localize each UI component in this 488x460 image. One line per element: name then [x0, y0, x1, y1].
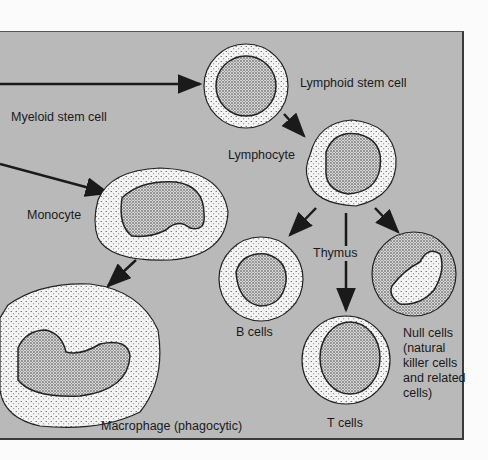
label-lymphoid-stem-cell: Lymphoid stem cell [300, 76, 407, 91]
label-monocyte: Monocyte [27, 208, 81, 223]
macrophage-cell [0, 284, 160, 428]
lymphocyte-cell [306, 120, 396, 206]
label-t-cells: T cells [327, 416, 363, 431]
label-myeloid-stem-cell: Myeloid stem cell [11, 110, 107, 125]
label-lymphocyte: Lymphocyte [228, 148, 295, 163]
arrow-monocyte-to-macrophage [108, 260, 136, 286]
lymphoid-stem-cell [204, 44, 288, 128]
label-null-cells: Null cells (natural killer cells and rel… [403, 326, 473, 401]
arrow-lymphocyte-to-nullcell [375, 208, 398, 232]
label-thymus: Thymus [313, 246, 357, 261]
arrow-lymphoid-to-lymphocyte [284, 114, 304, 136]
label-b-cells: B cells [236, 325, 273, 340]
label-macrophage: Macrophage (phagocytic) [101, 419, 242, 434]
arrow-to-monocyte [0, 164, 108, 193]
null-cell [372, 232, 456, 316]
monocyte-cell [95, 168, 228, 260]
b-cell [219, 237, 303, 321]
t-cell [302, 316, 390, 404]
arrow-lymphocyte-to-bcell [290, 208, 316, 235]
